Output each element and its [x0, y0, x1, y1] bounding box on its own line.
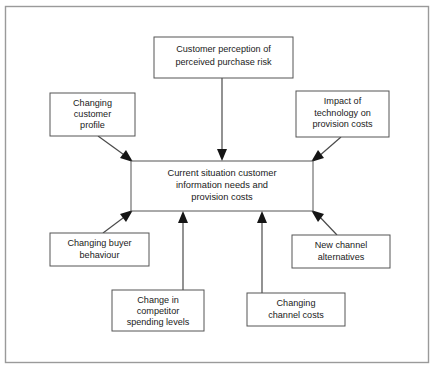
node-changing-buyer-behaviour[interactable]: Changing buyer behaviour [50, 233, 149, 266]
node-label-line: Current situation customer [167, 168, 276, 178]
connector-changing-channel-costs-to-central [257, 211, 267, 293]
node-customer-perception[interactable]: Customer perception of perceived purchas… [154, 37, 293, 78]
node-label-line: technology on [314, 108, 371, 118]
diagram-canvas: Current situation customer information n… [0, 0, 438, 374]
node-changing-channel-costs[interactable]: Changing channel costs [247, 293, 345, 326]
connector-line [318, 137, 341, 157]
node-central[interactable]: Current situation customer information n… [131, 161, 313, 211]
arrow-head [178, 211, 188, 223]
node-label-line: channel costs [268, 310, 324, 320]
arrow-head [120, 150, 133, 162]
connector-impact-of-technology-to-central [311, 137, 341, 162]
node-label-line: alternatives [318, 252, 365, 262]
node-label-line: Changing [73, 98, 112, 108]
node-label-line: provision costs [312, 119, 373, 129]
node-new-channel-alternatives[interactable]: New channel alternatives [292, 235, 390, 268]
connector-customer-perception-to-central [217, 78, 227, 161]
connector-change-in-competitor-spending-to-central [178, 211, 188, 290]
node-label-line: spending levels [127, 317, 190, 327]
node-impact-of-technology[interactable]: Impact of technology on provision costs [296, 91, 389, 137]
node-label-line: perceived purchase risk [175, 57, 271, 67]
arrow-head [311, 210, 324, 222]
node-label-line: Changing [277, 298, 316, 308]
node-label-line: New channel [315, 240, 368, 250]
node-label-line: behaviour [80, 250, 120, 260]
arrow-head [257, 211, 267, 223]
node-label-line: Impact of [324, 96, 362, 106]
arrow-head [120, 210, 133, 222]
node-change-in-competitor-spending[interactable]: Change in competitor spending levels [112, 290, 204, 331]
node-label-line: Changing buyer [67, 238, 131, 248]
node-label-line: Customer perception of [176, 44, 271, 54]
connector-new-channel-alternatives-to-central [311, 210, 337, 235]
arrow-head [217, 149, 227, 161]
node-changing-customer-profile[interactable]: Changing customer profile [50, 93, 135, 136]
connector-changing-customer-profile-to-central [98, 136, 133, 162]
connector-changing-buyer-behaviour-to-central [103, 210, 133, 233]
node-label-line: profile [80, 120, 105, 130]
influence-diagram: Current situation customer information n… [0, 0, 438, 374]
node-label-line: information needs and [176, 180, 268, 190]
connector-line [98, 136, 127, 157]
node-label-line: provision costs [191, 192, 253, 202]
node-label-line: Change in [137, 295, 178, 305]
node-label-line: customer [74, 109, 111, 119]
node-label-line: competitor [137, 306, 179, 316]
arrow-head [311, 150, 324, 162]
